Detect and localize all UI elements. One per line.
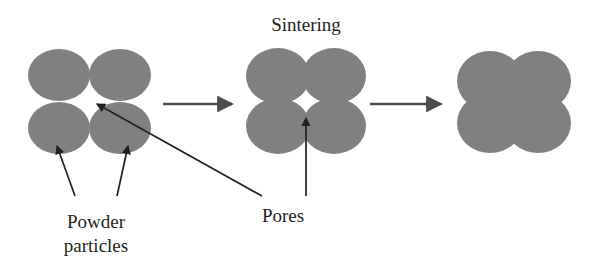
powder-particle-bottom-left: [28, 102, 90, 154]
sintering-particle-top-right: [302, 48, 366, 104]
powder-particles-label-line2: particles: [64, 235, 128, 256]
pores-label: Pores: [262, 205, 304, 226]
sintering-particle-bottom-left: [246, 98, 310, 154]
powder-particles-label-line1: Powder: [67, 211, 126, 232]
powder-particle-top-left: [28, 49, 90, 101]
densified-particle-bottom-right: [505, 93, 571, 153]
sintering-particle-bottom-right: [302, 98, 366, 154]
sintering-process-diagram: Sintering Powder particles Pores: [0, 0, 596, 268]
diagram-title: Sintering: [271, 14, 341, 35]
powder-particle-top-right: [89, 49, 151, 101]
sintering-particle-top-left: [246, 48, 310, 104]
